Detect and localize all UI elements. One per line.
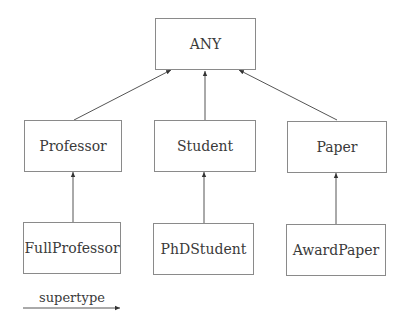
- node-label: PhDStudent: [161, 241, 247, 257]
- edge-professor-any: [74, 70, 171, 120]
- node-label: AwardPaper: [293, 242, 380, 258]
- node-awardpaper: AwardPaper: [286, 224, 386, 276]
- node-fullprofessor: FullProfessor: [23, 222, 121, 274]
- node-label: Student: [177, 138, 233, 154]
- node-any: ANY: [155, 18, 256, 70]
- edge-paper-any: [239, 70, 337, 120]
- legend-label: supertype: [24, 290, 120, 305]
- node-label: Professor: [39, 138, 107, 154]
- node-student: Student: [154, 120, 256, 172]
- node-label: Paper: [316, 139, 357, 155]
- node-phdstudent: PhDStudent: [153, 223, 254, 275]
- node-label: ANY: [190, 36, 222, 52]
- node-label: FullProfessor: [24, 240, 119, 256]
- node-paper: Paper: [287, 121, 387, 173]
- node-professor: Professor: [24, 120, 122, 172]
